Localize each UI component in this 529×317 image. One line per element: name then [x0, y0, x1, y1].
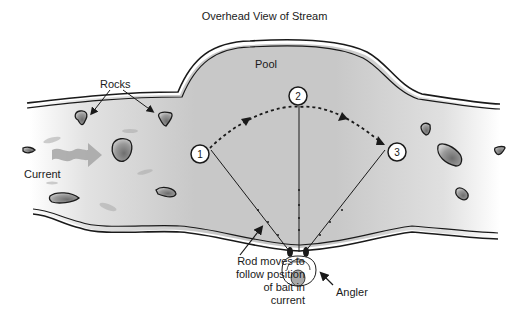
angler-label: Angler [336, 286, 368, 299]
marker-1-label: 1 [197, 149, 203, 160]
rock [23, 147, 35, 153]
marker-2: 2 [289, 87, 307, 105]
rock [495, 147, 505, 155]
rocks-label: Rocks [100, 78, 131, 91]
marker-3-label: 3 [394, 147, 400, 158]
angler-pointer [322, 274, 333, 285]
marker-1: 1 [191, 145, 209, 163]
rock [112, 139, 132, 162]
diagram-title: Overhead View of Stream [0, 10, 529, 23]
pool-label: Pool [255, 58, 277, 71]
current-label: Current [24, 168, 61, 181]
stream-diagram: 1 2 3 Overhead View of Stream Pool Rocks… [0, 0, 529, 317]
rod-note-label: Rod moves to follow position of bait in … [233, 255, 305, 307]
stream-water [30, 44, 500, 248]
marker-3: 3 [388, 143, 406, 161]
marker-2-label: 2 [295, 91, 301, 102]
